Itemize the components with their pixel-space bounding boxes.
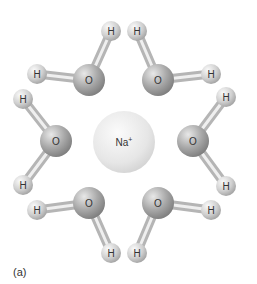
hydrogen-label: H [19,94,26,105]
oxygen-label: O [85,75,93,86]
sodium-ion: Na+ [93,111,155,173]
hydrogen-label: H [222,181,229,192]
water-molecule: HHO [27,21,121,96]
ion-charge: + [128,136,132,143]
oxygen-label: O [85,198,93,209]
water-molecule: HHO [27,187,121,263]
ion-label: Na [116,137,129,148]
hydrogen-label: H [133,26,140,37]
water-molecule: HHO [177,87,236,196]
oxygen-label: O [189,136,197,147]
oxygen-label: O [154,75,162,86]
hydrogen-label: H [33,205,40,216]
water-molecule: HHO [13,89,72,195]
hydrogen-label: H [207,205,214,216]
hydrogen-label: H [222,92,229,103]
figure-caption: (a) [13,266,26,278]
water-molecule: HHO [127,21,221,96]
hydrogen-label: H [107,248,114,259]
hydrogen-label: H [33,69,40,80]
oxygen-label: O [52,136,60,147]
hydration-shell-diagram: HHOHHOHHOHHOHHOHHO Na+ [0,0,257,284]
oxygen-label: O [154,198,162,209]
hydrogen-label: H [19,180,26,191]
hydrogen-label: H [207,69,214,80]
hydrogen-label: H [133,248,140,259]
hydrogen-label: H [107,26,114,37]
water-molecule: HHO [127,187,221,263]
